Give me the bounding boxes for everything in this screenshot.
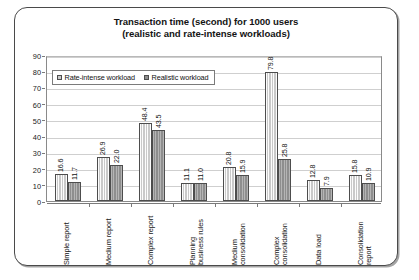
x-axis-category-label: Planningbusiness rules xyxy=(189,203,206,265)
bar xyxy=(362,183,375,201)
bar xyxy=(278,159,291,201)
y-axis-tick-mark xyxy=(42,137,45,138)
y-axis-tick-label: 10 xyxy=(21,181,41,190)
legend-label-realistic: Realistic workload xyxy=(152,73,209,82)
y-axis-tick-mark xyxy=(42,120,45,121)
bar-value-label: 22.0 xyxy=(113,150,121,163)
x-axis-category-label: Consolidationreport xyxy=(357,203,374,265)
chart-title-line-2: (realistic and rate-intense workloads) xyxy=(15,28,397,40)
x-axis-label-line: Data load xyxy=(315,203,323,265)
legend-item-rate-intense: Rate-intense workload xyxy=(57,73,135,82)
bar-value-label: 7.9 xyxy=(323,177,331,187)
x-axis-category-label: Medium report xyxy=(105,203,113,265)
bar xyxy=(110,165,123,201)
bar-value-label: 15.9 xyxy=(239,160,247,173)
grid-line xyxy=(47,121,381,122)
chart-title: Transaction time (second) for 1000 users… xyxy=(15,16,397,40)
bar xyxy=(265,72,278,201)
y-axis-tick-label: 70 xyxy=(21,84,41,93)
bar-value-label: 12.8 xyxy=(309,165,317,178)
legend-swatch-icon-rate-intense xyxy=(57,75,62,80)
grid-line xyxy=(47,105,381,106)
bar xyxy=(349,175,362,201)
grid-line xyxy=(47,203,381,204)
bar xyxy=(320,188,333,201)
bar xyxy=(181,183,194,201)
chart-figure: Transaction time (second) for 1000 users… xyxy=(14,7,398,266)
y-axis-tick-label: 40 xyxy=(21,133,41,142)
x-axis-category-label: Mediumconsolidation xyxy=(231,203,248,265)
x-axis-label-line: consolidation xyxy=(281,203,289,265)
x-axis-category-label: Complex report xyxy=(147,203,155,265)
bar xyxy=(194,183,207,201)
legend-swatch-icon-realistic xyxy=(144,75,149,80)
x-axis-label-line: report xyxy=(365,203,373,265)
x-axis-category-label: Data load xyxy=(315,203,323,265)
y-axis-tick-label: 50 xyxy=(21,116,41,125)
y-axis-tick-mark xyxy=(42,185,45,186)
x-axis-category-label: Simple report xyxy=(63,203,71,265)
x-axis-category-label: Complexconsolidation xyxy=(273,203,290,265)
grid-line xyxy=(47,138,381,139)
grid-line xyxy=(47,57,381,58)
legend-item-realistic: Realistic workload xyxy=(144,73,209,82)
y-axis-tick-mark xyxy=(42,202,45,203)
bar-value-label: 20.8 xyxy=(225,152,233,165)
bar xyxy=(236,175,249,201)
x-axis-label-line: Complex report xyxy=(147,203,155,265)
bar-value-label: 16.6 xyxy=(57,159,65,172)
y-axis-tick-label: 30 xyxy=(21,149,41,158)
bar-value-label: 25.8 xyxy=(281,144,289,157)
bar-value-label: 10.9 xyxy=(365,168,373,181)
y-axis-tick-label: 80 xyxy=(21,68,41,77)
y-axis: 0102030405060708090 xyxy=(15,56,44,202)
y-axis-tick-mark xyxy=(42,104,45,105)
y-axis-tick-mark xyxy=(42,88,45,89)
y-axis-tick-label: 20 xyxy=(21,165,41,174)
bar xyxy=(152,130,165,201)
grid-line xyxy=(47,154,381,155)
x-axis-label-line: business rules xyxy=(197,203,205,265)
bar-value-label: 26.9 xyxy=(99,142,107,155)
bar-value-label: 79.8 xyxy=(267,56,275,69)
bar-value-label: 48.4 xyxy=(141,107,149,120)
chart-title-line-1: Transaction time (second) for 1000 users xyxy=(15,16,397,28)
legend-label-rate-intense: Rate-intense workload xyxy=(65,73,136,82)
y-axis-tick-label: 0 xyxy=(21,198,41,207)
x-axis-category-labels: Simple reportMedium reportComplex report… xyxy=(46,205,382,267)
bar xyxy=(223,167,236,201)
bar-value-label: 15.8 xyxy=(351,160,359,173)
y-axis-tick-mark xyxy=(42,72,45,73)
bar xyxy=(97,157,110,201)
y-axis-tick-mark xyxy=(42,153,45,154)
y-axis-tick-mark xyxy=(42,56,45,57)
x-axis-label-line: Medium report xyxy=(105,203,113,265)
grid-line xyxy=(47,89,381,90)
x-axis-label-line: consolidation xyxy=(239,203,247,265)
y-axis-tick-label: 60 xyxy=(21,100,41,109)
bar-value-label: 11.7 xyxy=(71,167,79,180)
bar-value-label: 11.0 xyxy=(197,168,205,181)
bar xyxy=(307,180,320,201)
y-axis-tick-mark xyxy=(42,169,45,170)
bar-value-label: 11.1 xyxy=(183,168,191,181)
bar xyxy=(139,123,152,202)
bar-value-label: 43.5 xyxy=(155,115,163,128)
y-axis-tick-label: 90 xyxy=(21,52,41,61)
bar xyxy=(55,174,68,201)
x-axis-label-line: Simple report xyxy=(63,203,71,265)
chart-legend: Rate-intense workload Realistic workload xyxy=(52,70,215,85)
bar xyxy=(68,182,81,201)
